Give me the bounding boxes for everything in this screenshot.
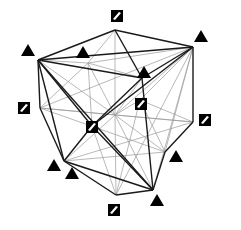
bold-edge-T-IB <box>115 30 142 78</box>
bold-edge-IB-BR <box>142 78 153 190</box>
marker-bottom-square-icon <box>108 204 120 216</box>
marker-top-right-triangle-icon <box>194 30 208 42</box>
marker-bottom-right-triangle-icon <box>150 194 164 206</box>
thin-edges <box>38 30 193 195</box>
marker-upper-inner-triangle-icon <box>76 46 90 58</box>
thin-edge-C-B <box>115 115 116 195</box>
marker-center-square-icon <box>86 121 98 133</box>
bold-edge-RM-BR <box>153 152 165 190</box>
thin-edge-L-R <box>40 108 193 122</box>
bold-edge-TL-TR <box>38 47 193 60</box>
bold-edge-BR-B <box>116 190 153 195</box>
marker-lower-right-triangle-icon <box>169 150 183 162</box>
marker-top-left-triangle-icon <box>21 44 35 56</box>
bold-edge-T-TL <box>38 30 115 60</box>
marker-right-square-icon <box>199 114 211 126</box>
marker-left-square-icon <box>18 102 30 114</box>
vertex-markers <box>18 10 211 216</box>
marker-top-square-icon <box>111 10 123 22</box>
thin-edge-IC-R <box>140 100 193 122</box>
polyhedron-diagram <box>0 0 241 230</box>
marker-lower-left-1-triangle-icon <box>47 159 61 171</box>
thin-edge-IC-B <box>116 100 140 195</box>
marker-inner-square-square-icon <box>135 98 147 110</box>
thin-edge-C-RM <box>115 115 165 152</box>
bold-edge-T-TR <box>115 30 193 47</box>
thin-edge-B-CS <box>92 126 116 195</box>
